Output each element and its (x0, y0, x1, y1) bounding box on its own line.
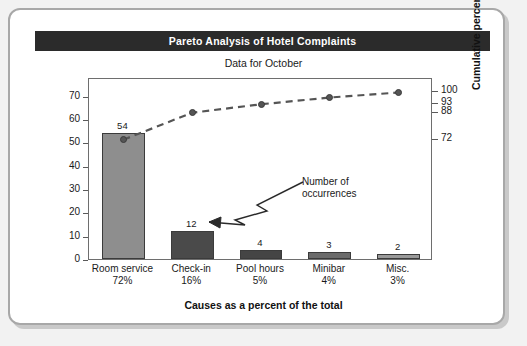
y-axis-tick-label: 0 (54, 253, 80, 264)
y-axis-right-tick-mark (432, 139, 438, 140)
chart-page: Pareto Analysis of Hotel Complaints Data… (0, 0, 527, 346)
y-axis-tick-label: 40 (54, 160, 80, 171)
y-axis-right-tick-label: 100 (441, 84, 458, 95)
y-axis-tick-label: 50 (54, 136, 80, 147)
y-axis-tick-mark (83, 213, 88, 214)
annotation-line-1: Number of (302, 176, 356, 188)
y-axis-tick-label: 70 (54, 90, 80, 101)
data-point-marker (120, 136, 127, 143)
category-name: Misc. (353, 263, 443, 275)
data-point-marker (189, 109, 196, 116)
x-axis-category-label: Misc.3% (353, 263, 443, 287)
plot-area (88, 78, 432, 260)
y-axis-tick-label: 30 (54, 183, 80, 194)
chart-subtitle: Data for October (0, 57, 527, 69)
chart-title-band: Pareto Analysis of Hotel Complaints (35, 31, 490, 51)
y-axis-right-tick-mark (432, 103, 438, 104)
y-axis-right-label: Cumulative percent (470, 0, 482, 90)
annotation-arrow-icon (195, 178, 305, 230)
bar-value-label: 3 (309, 239, 349, 250)
y-axis-right-tick-mark (432, 112, 438, 113)
page-title: Pareto Analysis of Hotel Complaints (169, 35, 356, 47)
data-point-marker (258, 101, 265, 108)
y-axis-right-tick-mark (432, 91, 438, 92)
bar-value-label: 2 (378, 241, 418, 252)
annotation-line-2: occurrences (302, 188, 356, 200)
y-axis-tick-label: 20 (54, 206, 80, 217)
bar-value-label: 54 (102, 120, 142, 131)
data-point-marker (395, 89, 402, 96)
y-axis-right-tick-label: 72 (441, 132, 452, 143)
y-axis-tick-mark (83, 97, 88, 98)
x-axis-label: Causes as a percent of the total (0, 299, 527, 311)
bar-value-label: 4 (240, 237, 280, 248)
y-axis-tick-label: 10 (54, 230, 80, 241)
y-axis-tick-mark (83, 260, 88, 261)
y-axis-tick-mark (83, 143, 88, 144)
category-percent: 3% (353, 275, 443, 287)
y-axis-right-tick-label: 93 (441, 96, 452, 107)
annotation-label: Number of occurrences (302, 176, 356, 200)
y-axis-tick-mark (83, 167, 88, 168)
y-axis-tick-mark (83, 190, 88, 191)
y-axis-tick-mark (83, 237, 88, 238)
y-axis-tick-label: 60 (54, 113, 80, 124)
y-axis-tick-mark (83, 120, 88, 121)
